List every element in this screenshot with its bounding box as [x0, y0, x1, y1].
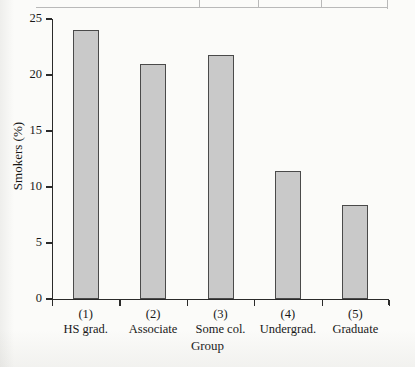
y-axis-tick-label-wrap: 5 [0, 243, 42, 244]
bar [73, 30, 99, 299]
x-axis-line [52, 299, 389, 300]
x-axis-category-index: (5) [315, 307, 396, 322]
x-axis-tick [119, 300, 120, 306]
x-axis-category-name: Graduate [315, 322, 396, 337]
y-axis-tick [46, 74, 52, 75]
x-axis-tick [322, 300, 323, 306]
bar [275, 171, 301, 299]
y-axis-tick-label: 0 [0, 292, 42, 305]
bar [208, 55, 234, 299]
y-axis-tick [46, 242, 52, 243]
y-axis-title: Smokers (%) [10, 91, 26, 221]
bar-chart: 0510152025 (1)HS grad.(2)Associate(3)Som… [0, 0, 415, 367]
x-axis-tick [52, 300, 53, 306]
y-axis-tick-label: 20 [0, 68, 42, 81]
y-axis-tick [46, 18, 52, 19]
y-axis-tick-label-wrap: 0 [0, 299, 42, 300]
y-axis-tick [46, 186, 52, 187]
y-axis-tick [46, 130, 52, 131]
x-axis-tick [389, 300, 390, 306]
y-axis-tick-label-wrap: 20 [0, 75, 42, 76]
y-axis-tick-label: 5 [0, 236, 42, 249]
figure-page: 0510152025 (1)HS grad.(2)Associate(3)Som… [0, 0, 415, 367]
y-axis-line [52, 19, 53, 300]
bar [140, 64, 166, 299]
bar [342, 205, 368, 299]
x-axis-tick [254, 300, 255, 306]
x-axis-category-label: (5)Graduate [315, 307, 396, 337]
x-axis-tick [187, 300, 188, 306]
y-axis-tick-label: 25 [0, 12, 42, 25]
x-axis-title: Group [0, 338, 415, 354]
y-axis-tick-label-wrap: 25 [0, 19, 42, 20]
